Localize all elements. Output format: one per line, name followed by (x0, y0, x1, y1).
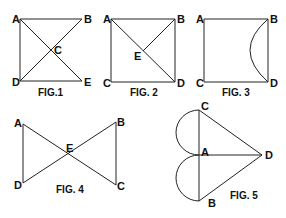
geometry-figures: A B C D E FIG.1 A B C D E FIG. 2 A B C D… (0, 0, 286, 218)
vertex-label-c: C (103, 77, 111, 89)
figure-3: A B C D FIG. 3 (196, 13, 278, 98)
vertex-label-a: A (14, 117, 22, 129)
vertex-label-d: D (265, 149, 273, 161)
vertex-label-e: E (66, 142, 73, 154)
vertex-label-e: E (134, 50, 141, 62)
figure-5: C A B D FIG. 5 (176, 100, 273, 209)
vertex-label-c: C (117, 180, 125, 192)
figure-1: A B C D E FIG.1 (12, 13, 92, 98)
semicircle-ab (176, 155, 199, 201)
vertex-label-b: B (177, 13, 185, 25)
figure-2: A B C D E FIG. 2 (103, 13, 185, 98)
vertex-label-e: E (84, 76, 91, 88)
vertex-label-b: B (208, 197, 216, 209)
vertex-label-c: C (54, 44, 62, 56)
vertex-label-b: B (84, 13, 92, 25)
vertex-label-c: C (201, 100, 209, 112)
figure-caption: FIG. 5 (230, 190, 258, 201)
vertex-label-d: D (14, 179, 22, 191)
segment-eb (143, 19, 175, 51)
figure-caption: FIG.1 (38, 87, 63, 98)
vertex-label-b: B (117, 116, 125, 128)
figure-caption: FIG. 2 (130, 87, 158, 98)
vertex-label-d: D (12, 76, 20, 88)
arc-bd (250, 19, 268, 82)
vertex-label-a: A (201, 146, 209, 158)
vertex-label-b: B (270, 13, 278, 25)
figure-caption: FIG. 4 (56, 184, 84, 195)
figure-caption: FIG. 3 (222, 87, 250, 98)
semicircle-ca (176, 110, 199, 155)
vertex-label-d: D (177, 77, 185, 89)
vertex-label-a: A (196, 13, 204, 25)
vertex-label-c: C (196, 77, 204, 89)
vertex-label-a: A (12, 13, 20, 25)
segment-ac (23, 124, 116, 185)
vertex-label-d: D (270, 77, 278, 89)
vertex-label-a: A (103, 13, 111, 25)
figure-4: A B C D E FIG. 4 (14, 116, 125, 195)
